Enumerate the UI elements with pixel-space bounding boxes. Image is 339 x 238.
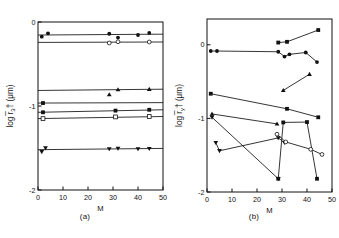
marker-filled-circle xyxy=(209,49,213,53)
marker-open-square xyxy=(41,117,45,121)
marker-filled-triangle-down xyxy=(136,147,141,151)
series-series-3 xyxy=(281,72,312,92)
series-series-3 xyxy=(38,87,163,97)
marker-filled-square xyxy=(276,177,280,181)
marker-filled-triangle-down xyxy=(39,150,44,154)
series-polyline xyxy=(278,30,318,43)
marker-filled-circle xyxy=(40,35,44,39)
y-label-dagger: † (μm) xyxy=(6,84,15,108)
marker-open-circle xyxy=(116,40,120,44)
series-fit-line xyxy=(38,34,163,35)
marker-filled-square xyxy=(285,107,289,111)
y-axis: 0-1-2 xyxy=(29,18,41,195)
panel-b: 01020304050M0-1-2log r̅y† (μm) (b) xyxy=(169,0,339,238)
series-polyline xyxy=(211,94,319,118)
marker-open-square xyxy=(147,115,151,119)
series-polyline xyxy=(283,74,309,90)
y-label-dagger: † (μm) xyxy=(175,84,184,108)
y-tick-label: 0 xyxy=(32,18,36,27)
marker-filled-square xyxy=(114,109,118,113)
marker-filled-circle xyxy=(116,36,120,40)
marker-open-circle xyxy=(275,132,279,136)
y-label-prefix: log xyxy=(175,114,184,127)
x-tick-label: 40 xyxy=(303,195,311,204)
series-fit-line xyxy=(38,89,163,90)
series-polyline xyxy=(216,138,285,151)
figure-root: 01020304050M0-1-2log r̅3† (μm) (a) 01020… xyxy=(0,0,339,238)
marker-open-square xyxy=(114,115,118,119)
x-tick-label: 50 xyxy=(159,193,167,202)
y-tick-label: 0 xyxy=(201,40,205,49)
marker-open-circle xyxy=(107,41,111,45)
marker-filled-circle xyxy=(107,32,111,36)
series-fit-line xyxy=(38,148,163,149)
series-series-6 xyxy=(210,116,281,182)
marker-filled-triangle-up xyxy=(281,88,286,92)
marker-filled-square xyxy=(315,177,319,181)
marker-filled-square xyxy=(147,108,151,112)
marker-filled-triangle-down xyxy=(213,141,218,145)
marker-filled-triangle-up xyxy=(147,87,152,91)
series-series-4 xyxy=(38,101,163,105)
series-series-1 xyxy=(276,28,320,44)
series-series-2 xyxy=(38,40,163,45)
panel-a-svg: 01020304050M0-1-2log r̅3† (μm) xyxy=(0,0,170,238)
marker-filled-square xyxy=(209,92,213,96)
marker-filled-square xyxy=(41,101,45,105)
series-series-6 xyxy=(38,115,163,121)
marker-filled-square xyxy=(316,28,320,32)
series-series-5 xyxy=(38,108,163,114)
marker-filled-circle xyxy=(147,31,151,35)
y-label-prefix: log xyxy=(6,114,15,127)
marker-open-circle xyxy=(284,140,288,144)
marker-filled-square xyxy=(281,121,285,125)
panel-b-caption: (b) xyxy=(169,212,339,221)
marker-filled-square xyxy=(316,115,320,119)
marker-filled-circle xyxy=(288,52,292,56)
series-series-5 xyxy=(210,112,280,126)
marker-filled-triangle-up xyxy=(307,72,312,76)
y-axis-label: log r̅y† (μm) xyxy=(174,84,185,127)
x-tick-label: 10 xyxy=(228,195,236,204)
x-tick-label: 0 xyxy=(36,193,40,202)
marker-filled-circle xyxy=(276,50,280,54)
panel-a-canvas: 01020304050M0-1-2log r̅3† (μm) xyxy=(0,0,170,238)
series-polyline xyxy=(277,134,322,154)
marker-filled-circle xyxy=(304,51,308,55)
marker-filled-triangle-up xyxy=(210,112,215,116)
y-tick-label: -1 xyxy=(29,102,35,111)
series-series-7 xyxy=(213,136,287,153)
x-tick-label: 20 xyxy=(84,193,92,202)
marker-filled-circle xyxy=(215,49,219,53)
marker-open-circle xyxy=(147,40,151,44)
x-tick-label: 40 xyxy=(134,193,142,202)
marker-filled-circle xyxy=(315,60,319,64)
series-series-4 xyxy=(209,92,320,119)
series-polyline xyxy=(211,51,317,62)
y-tick-label: -2 xyxy=(198,188,204,197)
plot-frame xyxy=(38,22,163,190)
panel-a-caption: (a) xyxy=(0,212,170,221)
series-series-2 xyxy=(209,49,319,64)
series-fit-line xyxy=(38,117,163,119)
y-tick-label: -1 xyxy=(198,114,204,123)
x-tick-label: 10 xyxy=(59,193,67,202)
series-fit-line xyxy=(38,110,163,113)
x-tick-label: 30 xyxy=(278,195,286,204)
marker-filled-triangle-down xyxy=(217,149,222,153)
frame-rect xyxy=(38,22,163,190)
y-axis-label-group: log r̅3† (μm) xyxy=(5,84,16,127)
y-axis: 0-1-2 xyxy=(198,40,210,196)
marker-filled-square xyxy=(276,41,280,45)
marker-filled-circle xyxy=(46,31,50,35)
x-tick-label: 30 xyxy=(109,193,117,202)
marker-filled-square xyxy=(41,110,45,114)
marker-filled-square xyxy=(285,40,289,44)
marker-open-circle xyxy=(309,147,313,151)
panel-a: 01020304050M0-1-2log r̅3† (μm) (a) xyxy=(0,0,170,238)
x-tick-label: 50 xyxy=(328,195,336,204)
panel-b-svg: 01020304050M0-1-2log r̅y† (μm) xyxy=(169,0,339,238)
marker-filled-square xyxy=(305,120,309,124)
y-axis-label-group: log r̅y† (μm) xyxy=(174,84,185,127)
data-series-group xyxy=(38,31,163,154)
